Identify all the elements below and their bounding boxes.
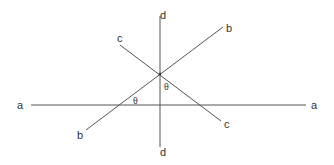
angle-theta-dc: θ	[164, 81, 169, 92]
label-b-upper: b	[226, 22, 232, 34]
label-d-upper: d	[160, 9, 166, 21]
label-c-lower: c	[224, 118, 230, 130]
label-d-lower: d	[160, 146, 166, 158]
intersection-point	[159, 73, 161, 75]
geometry-diagram: a a b b c c d d θ θ	[0, 0, 334, 165]
angle-theta-ab: θ	[133, 95, 138, 106]
label-b-lower: b	[77, 129, 83, 141]
line-c	[120, 45, 221, 121]
line-b	[86, 27, 223, 130]
label-a-right: a	[311, 99, 318, 111]
label-c-upper: c	[117, 32, 123, 44]
label-a-left: a	[17, 99, 24, 111]
